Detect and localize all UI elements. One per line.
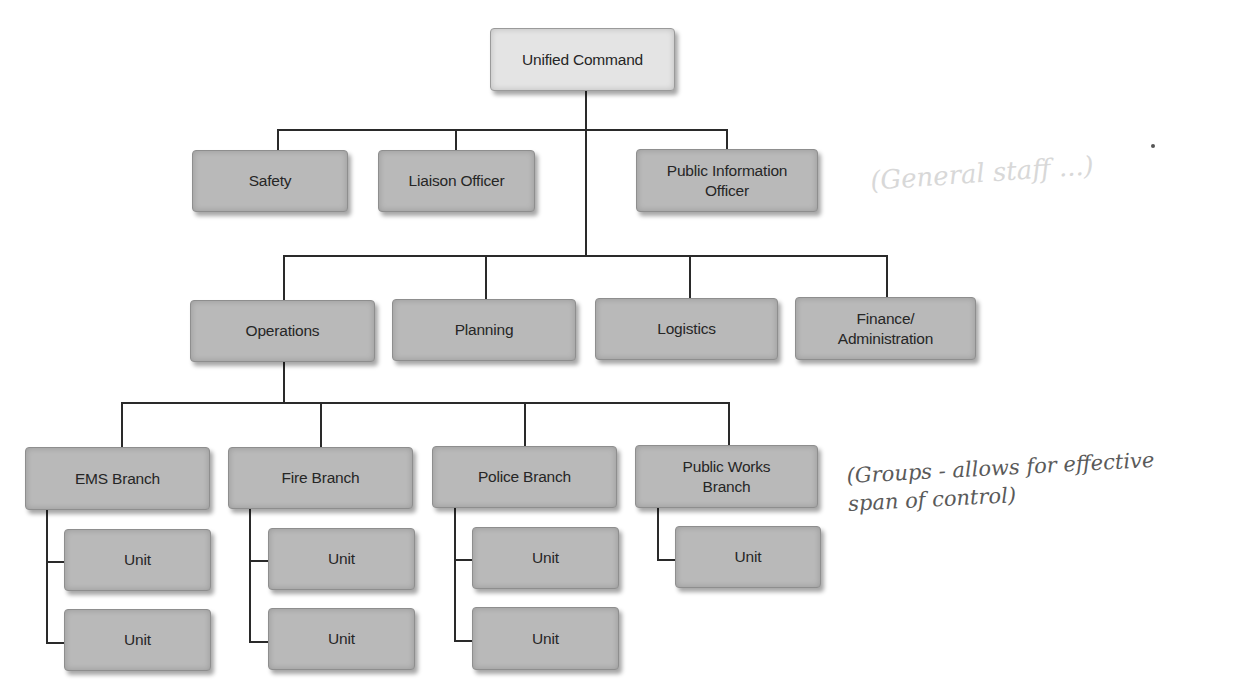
node-ems-unit: Unit (64, 529, 211, 591)
connector-fire-unit-1 (249, 560, 268, 562)
connector-pw-units-spine (657, 508, 659, 559)
node-label: Fire Branch (282, 468, 360, 488)
connector-police-units-spine (454, 508, 456, 641)
connector-pw-unit-1 (657, 559, 675, 561)
node-police-unit: Unit (472, 527, 619, 589)
node-fire-unit: Unit (268, 528, 415, 590)
node-label: Police Branch (478, 467, 571, 487)
node-label: Unit (735, 547, 762, 567)
node-label: Public Works Branch (683, 457, 771, 497)
node-public-works-unit: Unit (675, 526, 821, 588)
connector-logistics (689, 255, 691, 298)
connector-liaison (455, 129, 457, 150)
connector-operations (283, 255, 285, 300)
node-label: EMS Branch (75, 469, 160, 489)
connector-fire-unit-2 (249, 641, 268, 643)
faint-bleedthrough-text: (General staff ...) (869, 150, 1094, 196)
connector-police (524, 402, 526, 446)
node-label: Unit (328, 549, 355, 569)
node-label: Unit (532, 548, 559, 568)
connector-planning (485, 255, 487, 299)
node-label: Planning (455, 320, 514, 340)
node-label: Unit (124, 550, 151, 570)
node-label: Logistics (657, 319, 716, 339)
node-fire-branch: Fire Branch (228, 447, 413, 509)
connector-ems-units-spine (46, 510, 48, 642)
node-label: Finance/ Administration (838, 309, 933, 349)
connector-fire (320, 402, 322, 447)
node-safety: Safety (192, 150, 348, 212)
node-label: Operations (246, 321, 320, 341)
node-label: Liaison Officer (409, 171, 505, 191)
connector-branches-bar (121, 402, 729, 404)
node-label: Unit (124, 630, 151, 650)
ink-dot (1151, 144, 1155, 148)
connector-police-unit-2 (454, 640, 472, 642)
node-label: Safety (249, 171, 292, 191)
connector-ems (121, 402, 123, 447)
handwritten-note: (Groups - allows for effective span of c… (846, 446, 1156, 518)
node-police-unit: Unit (472, 607, 619, 670)
node-public-information-officer: Public Information Officer (636, 149, 818, 212)
node-label: Unit (328, 629, 355, 649)
node-label: Unit (532, 629, 559, 649)
connector-general-staff-bar (283, 255, 887, 257)
node-fire-unit: Unit (268, 608, 415, 670)
org-chart-canvas: Unified Command Safety Liaison Officer P… (0, 0, 1245, 700)
connector-ems-unit-2 (46, 642, 64, 644)
connector-public-works (728, 402, 730, 445)
node-label: Public Information Officer (667, 161, 787, 201)
node-public-works-branch: Public Works Branch (635, 445, 818, 508)
node-operations: Operations (190, 300, 375, 362)
connector-finance (886, 255, 888, 297)
node-ems-unit: Unit (64, 609, 211, 671)
connector-safety (277, 129, 279, 150)
connector-operations-down (283, 362, 285, 403)
connector-root-trunk (585, 91, 587, 256)
node-police-branch: Police Branch (432, 446, 617, 508)
node-ems-branch: EMS Branch (25, 447, 210, 510)
node-liaison-officer: Liaison Officer (378, 150, 535, 212)
node-unified-command: Unified Command (490, 28, 675, 91)
connector-fire-units-spine (249, 509, 251, 642)
node-logistics: Logistics (595, 298, 778, 360)
node-finance-administration: Finance/ Administration (795, 297, 976, 360)
connector-pio (726, 129, 728, 149)
connector-police-unit-1 (454, 559, 472, 561)
node-planning: Planning (392, 299, 576, 361)
node-label: Unified Command (522, 50, 643, 70)
connector-ems-unit-1 (46, 561, 64, 563)
connector-command-staff-bar (277, 129, 727, 131)
